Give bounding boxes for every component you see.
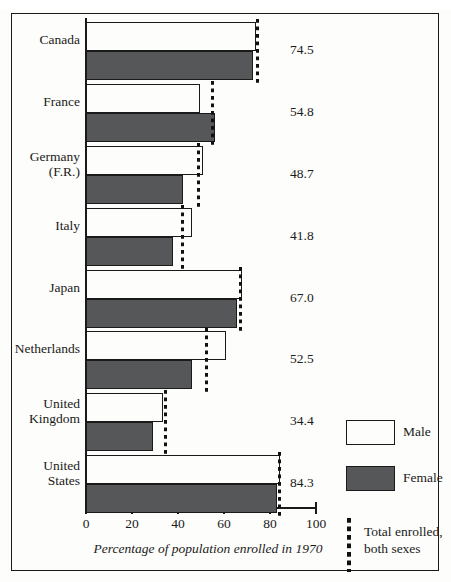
total-value-label: 84.3 (290, 475, 314, 491)
bar-male (86, 22, 256, 51)
bar-female (86, 360, 192, 389)
x-axis-tick-label-60: 60 (204, 516, 244, 532)
total-marker-line (181, 205, 184, 270)
x-axis-tick-label-100: 100 (296, 516, 336, 532)
bar-male (86, 455, 280, 484)
country-label: Japan (49, 280, 80, 295)
total-marker-line (211, 81, 214, 146)
country-label: Netherlands (15, 341, 80, 356)
total-value-label: 41.8 (290, 228, 314, 244)
bar-female (86, 175, 183, 204)
legend-swatch-male (346, 420, 395, 445)
legend-swatch-total (347, 518, 351, 572)
bar-male (86, 84, 200, 113)
bar-male (86, 146, 203, 175)
total-marker-line (197, 143, 200, 208)
bar-female (86, 51, 253, 80)
x-axis-tick-label-20: 20 (112, 516, 152, 532)
country-label: Italy (55, 218, 80, 233)
bar-male (86, 393, 163, 422)
total-marker-line (278, 452, 281, 517)
x-axis-tick-label-40: 40 (158, 516, 198, 532)
scan-margin (0, 0, 451, 10)
bar-female (86, 113, 215, 142)
country-label: Canada (40, 32, 80, 47)
legend-label-total: Total enrolled, both sexes (364, 523, 443, 557)
bar-female (86, 237, 173, 266)
bar-male (86, 208, 192, 237)
bar-male (86, 270, 242, 299)
total-marker-line (164, 390, 167, 455)
legend-label-female: Female (403, 470, 443, 486)
total-marker-line (239, 267, 242, 332)
x-axis-caption: Percentage of population enrolled in 197… (78, 541, 338, 557)
total-marker-line (256, 19, 259, 84)
bar-female (86, 299, 237, 328)
bar-female (86, 422, 153, 451)
chart-container: 020406080100 Canada74.5France54.8Germany… (0, 0, 451, 582)
total-value-label: 67.0 (290, 290, 314, 306)
total-value-label: 48.7 (290, 166, 314, 182)
x-axis-tick-label-0: 0 (66, 516, 106, 532)
legend-swatch-female (346, 466, 395, 491)
total-value-label: 34.4 (290, 413, 314, 429)
x-axis-tick-100 (315, 502, 317, 514)
bar-female (86, 484, 277, 513)
total-value-label: 74.5 (290, 42, 314, 58)
total-marker-line (205, 328, 208, 393)
total-value-label: 52.5 (290, 351, 314, 367)
country-label: United States (43, 458, 80, 488)
total-value-label: 54.8 (290, 104, 314, 120)
country-label: France (43, 94, 80, 109)
country-label: Germany (F.R.) (30, 149, 80, 179)
x-axis-tick-label-80: 80 (250, 516, 290, 532)
legend-label-male: Male (403, 424, 431, 440)
country-label: United Kingdom (29, 396, 80, 426)
